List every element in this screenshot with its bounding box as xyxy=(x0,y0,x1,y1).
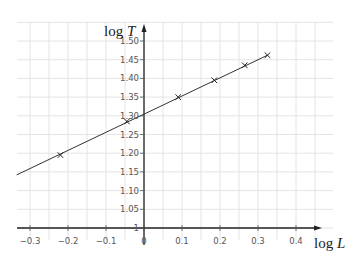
x-tick-label: −0.3 xyxy=(20,236,41,246)
x-tick-label: 0 xyxy=(141,236,146,246)
y-tick-label: 1.15 xyxy=(120,167,139,177)
y-tick-label: 1.05 xyxy=(120,204,139,214)
y-tick-label: 1.45 xyxy=(120,55,139,65)
y-axis-title: log T xyxy=(104,23,137,39)
y-tick-label: 1.40 xyxy=(120,73,139,83)
axis-ticks: −0.3−0.2−0.100.10.20.30.411.051.101.151.… xyxy=(20,36,303,246)
x-tick-label: 0.2 xyxy=(213,236,227,246)
scatter-chart: −0.3−0.2−0.100.10.20.30.411.051.101.151.… xyxy=(0,0,354,262)
x-tick-label: 0.1 xyxy=(175,236,189,246)
y-tick-label: 1.25 xyxy=(120,130,139,140)
y-tick-label: 1 xyxy=(134,223,139,233)
y-tick-label: 1.35 xyxy=(120,92,139,102)
y-axis-arrow-icon xyxy=(142,24,147,32)
x-tick-label: 0.4 xyxy=(289,236,303,246)
grid-lines xyxy=(17,22,333,240)
y-tick-label: 1.10 xyxy=(120,186,139,196)
x-axis-arrow-icon xyxy=(314,226,322,231)
x-tick-label: −0.1 xyxy=(96,236,117,246)
x-tick-label: 0.3 xyxy=(251,236,265,246)
x-axis-title: log L xyxy=(314,235,345,251)
y-tick-label: 1.20 xyxy=(120,148,139,158)
x-tick-label: −0.2 xyxy=(58,236,79,246)
data-point-x-marker-icon xyxy=(265,52,271,58)
best-fit-line xyxy=(17,55,268,175)
fit-line xyxy=(17,55,268,175)
